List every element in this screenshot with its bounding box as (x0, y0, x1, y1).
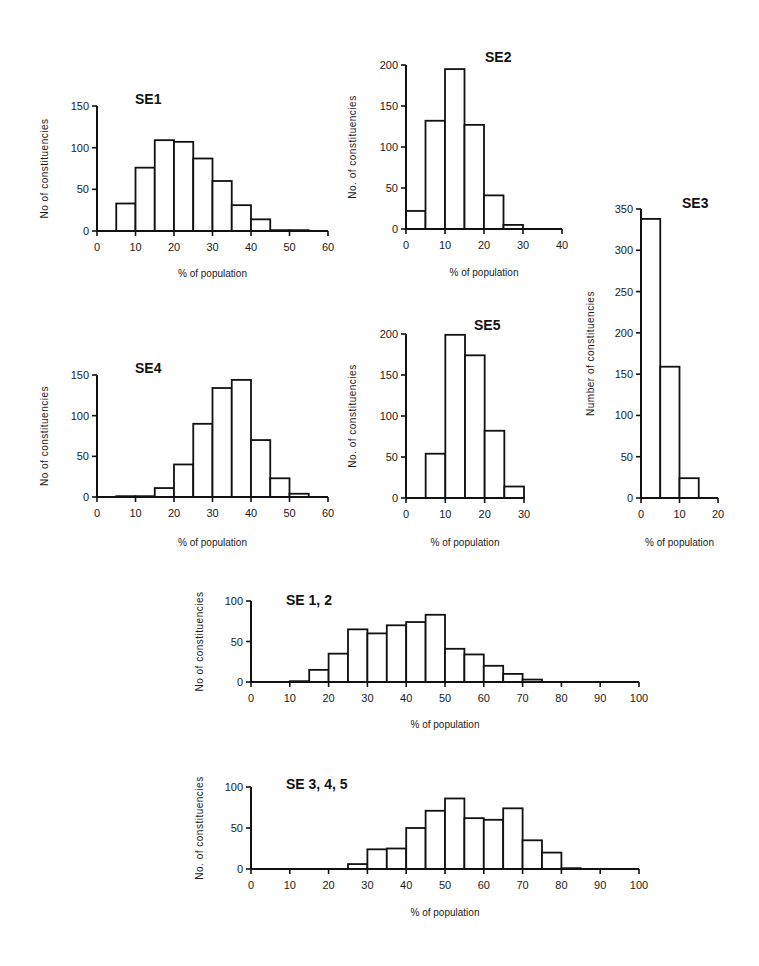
y-tick-label: 0 (237, 863, 243, 875)
y-tick-label: 100 (380, 410, 398, 422)
x-tick-label: 60 (478, 692, 490, 704)
y-axis-label: No of constituencies (194, 591, 205, 691)
y-tick-label: 300 (615, 244, 633, 256)
histogram-se1: 0501001500102030405060SE1% of population… (39, 91, 334, 279)
histogram-bar (116, 204, 135, 232)
x-tick-label: 0 (248, 879, 254, 891)
chart-title: SE5 (474, 317, 501, 333)
x-tick-label: 40 (245, 507, 257, 519)
x-tick-label: 0 (638, 508, 644, 520)
x-tick-label: 50 (439, 692, 451, 704)
chart-title: SE3 (682, 195, 709, 211)
x-tick-label: 40 (400, 692, 412, 704)
x-tick-label: 0 (403, 508, 409, 520)
y-tick-label: 150 (615, 368, 633, 380)
x-tick-label: 40 (245, 241, 257, 253)
x-tick-label: 10 (129, 507, 141, 519)
histogram-bar (641, 219, 660, 498)
x-tick-label: 30 (517, 239, 529, 251)
x-tick-label: 20 (479, 508, 491, 520)
x-tick-label: 20 (168, 507, 180, 519)
histogram-se12: 0501000102030405060708090100SE 1, 2% of … (194, 591, 648, 730)
x-tick-label: 60 (322, 241, 334, 253)
histogram-bar (426, 454, 446, 498)
histogram-bar (464, 818, 483, 869)
x-tick-label: 0 (248, 692, 254, 704)
histogram-bar (445, 69, 465, 229)
x-axis-label: % of population (178, 268, 247, 279)
y-tick-label: 50 (386, 182, 398, 194)
x-tick-label: 10 (129, 241, 141, 253)
x-tick-label: 100 (630, 879, 648, 891)
y-axis-label: No of constituencies (39, 386, 50, 486)
histogram-bar (465, 125, 485, 229)
y-tick-label: 100 (71, 142, 89, 154)
histogram-bar (660, 367, 679, 498)
histogram-bar (464, 654, 483, 682)
y-tick-label: 0 (392, 223, 398, 235)
histogram-bar (367, 849, 386, 869)
histogram-bar (329, 654, 348, 682)
x-tick-label: 80 (555, 692, 567, 704)
x-tick-label: 60 (322, 507, 334, 519)
x-tick-label: 30 (206, 507, 218, 519)
y-tick-label: 150 (71, 100, 89, 112)
histogram-bar (503, 674, 522, 682)
histogram-bar (503, 808, 522, 869)
x-tick-label: 0 (94, 507, 100, 519)
y-tick-label: 100 (225, 781, 243, 793)
x-tick-label: 10 (439, 508, 451, 520)
histogram-bar (426, 121, 446, 229)
x-tick-label: 40 (400, 879, 412, 891)
histogram-bar (387, 849, 406, 870)
histogram-bar (174, 464, 193, 497)
y-tick-label: 0 (392, 492, 398, 504)
x-axis-label: % of population (450, 267, 519, 278)
histogram-bar (426, 811, 445, 869)
histogram-bar (406, 828, 425, 869)
chart-title: SE4 (135, 360, 162, 376)
y-tick-label: 0 (237, 676, 243, 688)
histogram-bar (155, 488, 174, 497)
y-tick-label: 50 (621, 451, 633, 463)
histogram-bar (213, 388, 232, 497)
y-tick-label: 0 (83, 491, 89, 503)
histogram-bar (485, 431, 505, 498)
y-tick-label: 100 (71, 410, 89, 422)
x-tick-label: 50 (439, 879, 451, 891)
x-tick-label: 80 (555, 879, 567, 891)
x-axis-label: % of population (431, 537, 500, 548)
y-axis-label: No. of constituencies (347, 364, 358, 467)
histogram-bar (348, 629, 367, 682)
histogram-se345: 0501000102030405060708090100SE 3, 4, 5% … (194, 776, 648, 918)
x-tick-label: 0 (94, 241, 100, 253)
x-tick-label: 90 (594, 879, 606, 891)
y-tick-label: 50 (386, 451, 398, 463)
x-tick-label: 30 (361, 692, 373, 704)
histogram-bar (504, 487, 524, 498)
histogram-bar (426, 615, 445, 682)
histogram-bar (232, 205, 251, 231)
histogram-bar (542, 853, 561, 869)
histogram-bar (680, 478, 699, 498)
y-tick-label: 0 (83, 225, 89, 237)
y-tick-label: 50 (231, 636, 243, 648)
y-tick-label: 50 (77, 450, 89, 462)
y-tick-label: 150 (380, 100, 398, 112)
y-tick-label: 50 (231, 822, 243, 834)
x-tick-label: 50 (283, 241, 295, 253)
x-tick-label: 10 (284, 692, 296, 704)
x-axis-label: % of population (411, 719, 480, 730)
y-tick-label: 150 (71, 369, 89, 381)
y-tick-label: 100 (380, 141, 398, 153)
chart-title: SE 3, 4, 5 (286, 776, 348, 792)
y-axis-label: Number of constituencies (585, 291, 596, 416)
y-tick-label: 100 (615, 409, 633, 421)
y-tick-label: 200 (380, 328, 398, 340)
x-tick-label: 40 (556, 239, 568, 251)
histogram-bar (251, 440, 270, 497)
x-tick-label: 30 (518, 508, 530, 520)
figure: 0501001500102030405060SE1% of population… (0, 0, 759, 966)
histogram-bar (387, 625, 406, 682)
histogram-se5: 0501001502000102030SE5% of populationNo.… (347, 317, 530, 548)
